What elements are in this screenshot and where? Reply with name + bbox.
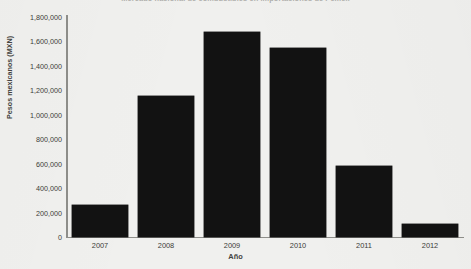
y-tick-label: 1,800,000 [4, 13, 62, 22]
x-axis-title: Año [0, 252, 471, 261]
bar-2010 [270, 48, 326, 237]
plot-area [67, 17, 463, 237]
y-tick-label: 1,000,000 [4, 110, 62, 119]
y-tick-label: 200,000 [4, 208, 62, 217]
y-tick-label: 0 [4, 233, 62, 242]
bar-2012 [402, 224, 458, 237]
bar-2009 [204, 32, 260, 237]
chart-screenshot: Mercado nacional de combustibles en impo… [0, 0, 471, 269]
y-tick-label: 400,000 [4, 184, 62, 193]
y-tick-label: 1,200,000 [4, 86, 62, 95]
x-tick-label: 2008 [158, 241, 174, 250]
bar-2008 [138, 96, 194, 237]
y-axis-tick-labels: 1,800,0001,600,0001,400,0001,200,0001,00… [0, 0, 62, 269]
x-tick-label: 2007 [92, 241, 108, 250]
y-tick-label: 600,000 [4, 159, 62, 168]
x-axis-line [66, 237, 464, 238]
x-tick-label: 2011 [356, 241, 372, 250]
y-tick-label: 1,600,000 [4, 37, 62, 46]
bar-2007 [72, 205, 128, 237]
x-tick-label: 2010 [290, 241, 306, 250]
bar-2011 [336, 166, 392, 237]
x-tick-label: 2012 [422, 241, 438, 250]
y-tick-label: 1,400,000 [4, 61, 62, 70]
y-tick-label: 800,000 [4, 135, 62, 144]
chart-title: Mercado nacional de combustibles en impo… [0, 0, 471, 3]
x-tick-label: 2009 [224, 241, 240, 250]
